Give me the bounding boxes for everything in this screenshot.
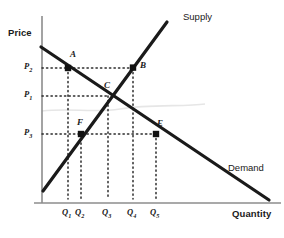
data-point-b <box>130 64 136 70</box>
data-point-f <box>78 131 84 137</box>
y-axis-title: Price <box>8 28 32 38</box>
y-tick-sub-p1: 1 <box>29 94 32 101</box>
x-tick-sub-q5: 5 <box>156 212 159 219</box>
x-tick-sub-q1: 1 <box>68 212 71 219</box>
y-tick-label-p3: P3 <box>24 128 32 139</box>
demand-curve <box>41 47 269 200</box>
x-tick-label-q1: Q1 <box>62 208 71 219</box>
data-point-e <box>153 131 159 137</box>
x-tick-sub-q4: 4 <box>133 212 136 219</box>
x-tick-label-q3: Q3 <box>102 208 111 219</box>
point-label-f: F <box>77 118 83 127</box>
point-label-a: A <box>70 50 76 59</box>
y-tick-label-p2: P2 <box>24 62 32 73</box>
x-axis-title: Quantity <box>232 209 271 219</box>
y-tick-sub-p3: 3 <box>29 132 32 139</box>
point-label-c: C <box>104 81 110 90</box>
y-tick-sub-p2: 2 <box>29 66 32 73</box>
demand-curve-label: Demand <box>228 163 264 173</box>
x-tick-sub-q3: 3 <box>108 212 111 219</box>
x-tick-label-q2: Q2 <box>75 208 84 219</box>
data-point-a <box>65 65 71 71</box>
scan-artifact <box>42 104 205 111</box>
x-tick-sub-q2: 2 <box>81 212 84 219</box>
y-tick-label-p1: P1 <box>24 90 32 101</box>
supply-demand-chart: Price Quantity Supply Demand P2 P1 P3 Q1… <box>0 0 284 238</box>
x-tick-label-q4: Q4 <box>127 208 136 219</box>
chart-canvas <box>0 0 284 238</box>
point-label-e: E <box>157 119 163 128</box>
supply-curve-label: Supply <box>183 12 212 22</box>
point-label-b: B <box>140 61 146 70</box>
x-tick-label-q5: Q5 <box>150 208 159 219</box>
